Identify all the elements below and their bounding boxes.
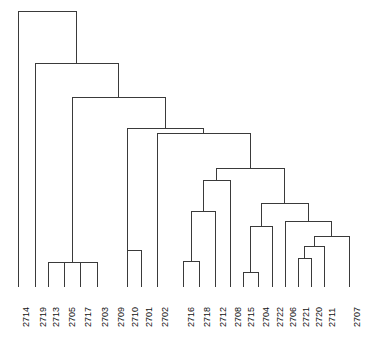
leaf-label-2709: 2709: [117, 307, 126, 327]
leaf-label-2705: 2705: [68, 307, 77, 327]
dendrogram-figure: 2714271927132705271727032709271027012702…: [0, 0, 367, 343]
leaf-label-2716: 2716: [187, 307, 196, 327]
leaf-label-2719: 2719: [39, 307, 48, 327]
leaf-label-2707: 2707: [353, 307, 362, 327]
leaf-label-2702: 2702: [161, 307, 170, 327]
leaf-label-2710: 2710: [131, 307, 140, 327]
leaf-label-2717: 2717: [84, 307, 93, 327]
leaf-label-2714: 2714: [22, 307, 31, 327]
leaf-label-2718: 2718: [203, 307, 212, 327]
leaf-label-layer: 2714271927132705271727032709271027012702…: [0, 0, 367, 343]
leaf-label-2713: 2713: [52, 307, 61, 327]
leaf-label-2704: 2704: [262, 307, 271, 327]
leaf-label-2708: 2708: [234, 307, 243, 327]
leaf-label-2720: 2720: [315, 307, 324, 327]
leaf-label-2715: 2715: [247, 307, 256, 327]
leaf-label-2701: 2701: [145, 307, 154, 327]
leaf-label-2722: 2722: [276, 307, 285, 327]
leaf-label-2712: 2712: [219, 307, 228, 327]
leaf-label-2706: 2706: [289, 307, 298, 327]
leaf-label-2711: 2711: [328, 308, 337, 327]
leaf-label-2721: 2721: [302, 307, 311, 327]
leaf-label-2703: 2703: [101, 307, 110, 327]
